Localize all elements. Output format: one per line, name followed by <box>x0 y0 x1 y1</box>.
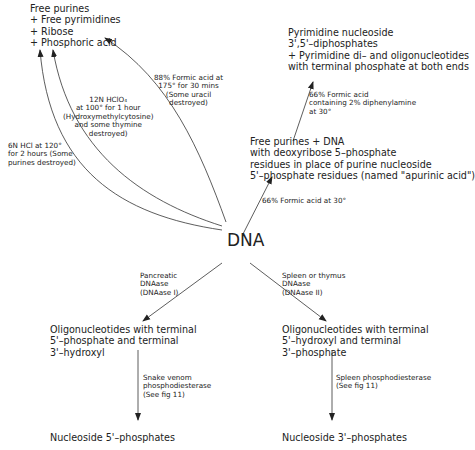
product-pyrimidine-nucleotides: Pyrimidine nucleoside 3',5'–diphosphates… <box>288 27 469 72</box>
condition-formic66-dpa: 66% Formic acid containing 2% diphenylam… <box>309 91 416 116</box>
arrow-formic66 <box>243 177 272 234</box>
condition-hclo4: 12N HClO₄ at 100° for 1 hour (Hydroxymet… <box>63 96 154 138</box>
product-nucleoside-5-phosphates: Nucleoside 5'–phosphates <box>50 432 175 443</box>
condition-formic88: 88% Formic acid at 175° for 30 mins (Som… <box>154 74 223 108</box>
product-oligo-5-phosphate: Oligonucleotides with terminal 5'–phosph… <box>50 324 197 358</box>
condition-spleen-pde: Spleen phosphodiesterase (See fig 11) <box>336 374 431 391</box>
product-acid-hydrolysis: Free purines + Free pyrimidines + Ribose… <box>30 3 121 48</box>
dna-label: DNA <box>227 230 264 250</box>
condition-dnase1: Pancreatic DNAase (DNAase I) <box>140 272 178 297</box>
product-nucleoside-3-phosphates: Nucleoside 3'–phosphates <box>282 432 407 443</box>
condition-formic66: 66% Formic acid at 30° <box>262 197 346 205</box>
product-oligo-3-phosphate: Oligonucleotides with terminal 5'–hydrox… <box>282 324 429 358</box>
condition-dnase2: Spleen or thymus DNAase (DNAase II) <box>282 272 345 297</box>
condition-snake-venom: Snake venom phosphodiesterase (See fig 1… <box>143 374 211 399</box>
condition-hcl: 6N HCl at 120° for 2 hours (Some purines… <box>8 142 76 167</box>
product-apurinic-acid: Free purines + DNA with deoxyribose 5–ph… <box>250 136 475 181</box>
